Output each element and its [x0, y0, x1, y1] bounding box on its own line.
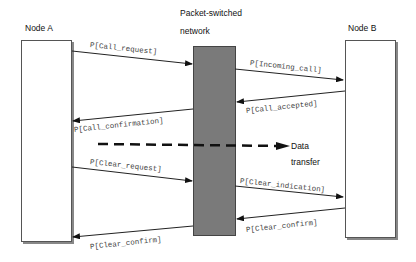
message-arrows — [0, 0, 416, 262]
data-transfer-label-line2: transfer — [291, 157, 320, 167]
data-transfer-label-line1: Data — [291, 141, 309, 151]
